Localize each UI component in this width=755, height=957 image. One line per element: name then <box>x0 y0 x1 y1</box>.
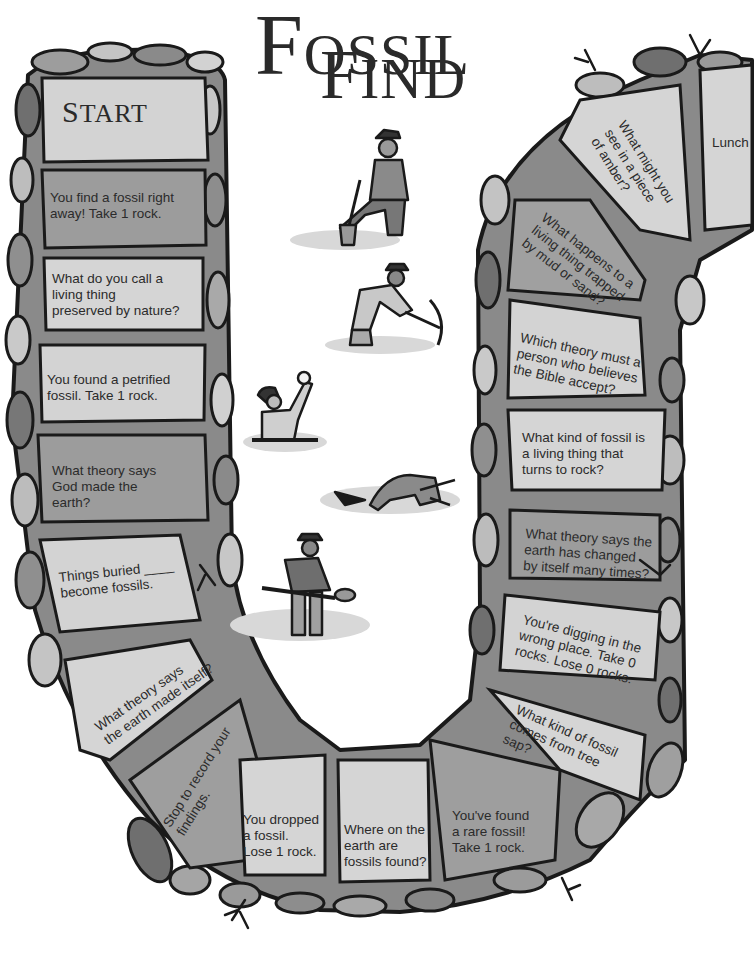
space-3[interactable]: You found a petrified fossil. Take 1 roc… <box>47 372 170 404</box>
digger-with-shovel-illustration <box>340 130 408 245</box>
space-lunch[interactable]: Lunch <box>712 135 749 151</box>
space-9[interactable]: Where on the earth are fossils found? <box>344 822 427 870</box>
space-14[interactable]: What kind of fossil is a living thing th… <box>522 430 645 478</box>
space-8[interactable]: You dropped a fossil. Lose 1 rock. <box>243 812 319 860</box>
illustrations <box>230 130 460 641</box>
space-1[interactable]: You find a fossil right away! Take 1 roc… <box>50 190 174 222</box>
title-find: FIND <box>320 40 466 110</box>
title-initial-f2: F <box>320 36 360 113</box>
space-2[interactable]: What do you call a living thing preserve… <box>52 271 180 319</box>
start-rest: TART <box>80 99 148 128</box>
space-13[interactable]: What theory says the earth has changed b… <box>523 526 653 583</box>
person-holding-skull-illustration <box>252 372 318 440</box>
start-initial: S <box>62 95 80 128</box>
space-4[interactable]: What theory says God made the earth? <box>52 463 156 511</box>
title-rest-ind: IND <box>360 46 466 111</box>
space-start[interactable]: START <box>62 95 148 129</box>
digger-with-pickaxe-illustration <box>350 264 442 345</box>
title-initial-f: F <box>255 0 304 93</box>
space-10[interactable]: You've found a rare fossil! Take 1 rock. <box>452 808 529 856</box>
